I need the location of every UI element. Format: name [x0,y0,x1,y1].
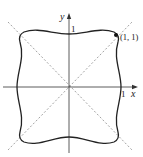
point-1-1 [114,33,118,37]
point-label: (1, 1) [120,32,139,42]
figure: y 1 x 1 (1, 1) [0,0,143,157]
y-axis-label: y [59,11,65,22]
y-tick-label: 1 [71,24,76,34]
y-axis-arrow-icon [67,13,71,19]
x-tick-label: 1 [121,89,126,99]
x-axis-label: x [130,88,136,99]
